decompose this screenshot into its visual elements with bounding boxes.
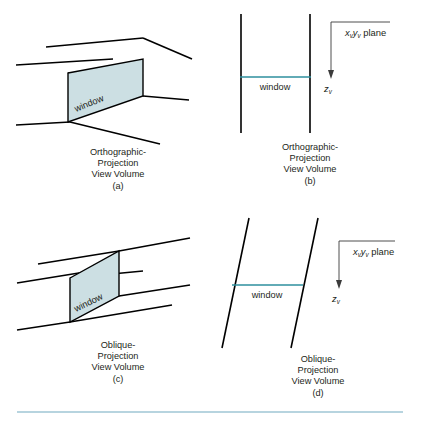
panel-a-edge-top-front	[143, 38, 192, 59]
panel-b-z-sub: v	[329, 88, 333, 95]
panel-a-caption-line-2: Projection	[98, 158, 139, 168]
panel-a-edge-top-back	[46, 38, 143, 47]
panel-d-window-label: window	[251, 290, 283, 300]
panel-d-plane-word: plane	[371, 246, 394, 257]
panel-c-caption-line-2: Projection	[98, 351, 139, 361]
panel-b-caption-line-1: Orthographic-	[282, 142, 338, 152]
panel-d-caption-line-3: View Volume	[292, 376, 345, 386]
panel-d-caption-tag: (d)	[312, 388, 323, 398]
panel-d-z-sub: v	[337, 298, 341, 305]
panel-c-caption-tag: (c)	[113, 374, 124, 384]
panel-d-z-axis-arrowhead	[336, 280, 342, 289]
panel-a-edge-right-mid	[143, 96, 189, 100]
panel-b-axis-indicator: xvyv plane zv	[323, 22, 390, 95]
panel-c-caption-line-1: Oblique-	[101, 340, 136, 350]
panel-a-caption-line-1: Orthographic-	[90, 147, 146, 157]
panel-c-oblique-3d: window Oblique- Projection View Volume (…	[17, 238, 190, 384]
panel-b-window-label: window	[259, 82, 291, 92]
panel-a-edge-low-back	[16, 122, 70, 125]
panel-b-plane-word: plane	[363, 27, 386, 38]
panel-c-edge-right-mid	[119, 285, 190, 296]
projection-view-volumes-figure: window Orthographic- Projection View Vol…	[0, 0, 435, 425]
panel-a-caption-line-3: View Volume	[92, 169, 145, 179]
panel-a-edge-bottom-front	[70, 122, 160, 144]
panel-d-z-label: zv	[331, 293, 341, 305]
panel-c-caption-line-3: View Volume	[92, 362, 145, 372]
panel-b-z-axis-arrowhead	[328, 70, 334, 79]
panel-d-caption-line-2: Projection	[298, 365, 339, 375]
panel-b-caption-line-3: View Volume	[284, 164, 337, 174]
figure-root: window Orthographic- Projection View Vol…	[0, 0, 435, 425]
panel-d-caption-line-1: Oblique-	[301, 354, 336, 364]
panel-d-axis-indicator: xvyv plane zv	[331, 241, 395, 305]
panel-d-left-boundary	[222, 218, 249, 348]
panel-d-plane-label: xvyv plane	[352, 246, 394, 258]
panel-b-orthographic-side: window xvyv plane zv Orthographic- Proje…	[240, 14, 390, 186]
panel-b-plane-label: xvyv plane	[344, 27, 386, 39]
panel-d-right-boundary	[291, 218, 318, 348]
panel-a-caption-tag: (a)	[112, 181, 123, 191]
panel-a-orthographic-3d: window Orthographic- Projection View Vol…	[16, 38, 192, 191]
panel-b-caption-tag: (b)	[304, 176, 315, 186]
panel-b-z-label: zv	[323, 83, 333, 95]
panel-a-edge-mid-back	[16, 59, 113, 65]
panel-d-oblique-side: window xvyv plane zv Oblique- Projection…	[222, 218, 395, 398]
panel-b-caption-line-2: Projection	[290, 153, 331, 163]
panel-c-edge-low-back	[17, 322, 70, 330]
panel-c-edge-top-front	[119, 238, 190, 251]
